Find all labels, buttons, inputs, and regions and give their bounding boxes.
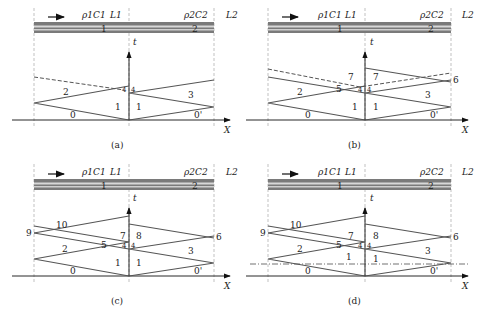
panel-caption: (d) bbox=[348, 296, 361, 306]
rod2-impedance-label: ρ2C2 bbox=[419, 167, 444, 177]
segment-2-label: 2 bbox=[428, 181, 434, 191]
rod1-impedance-label: ρ1C1 bbox=[317, 10, 342, 20]
region-label: 6 bbox=[453, 75, 459, 85]
wave-lines bbox=[268, 68, 451, 120]
region-label: 5 bbox=[336, 240, 342, 250]
panel-c: ρ1C1 L1 ρ2C2 L2 1 2 t X 0 0' 1 1 2 3 4 4… bbox=[12, 164, 238, 306]
region-label: 0 bbox=[70, 110, 76, 120]
rod-bar bbox=[34, 22, 214, 33]
l2-label: L2 bbox=[225, 10, 238, 20]
x-axis-label: X bbox=[223, 125, 231, 135]
region-label: 10 bbox=[290, 220, 302, 230]
x-axis-label: X bbox=[461, 125, 469, 135]
x-axis-label: X bbox=[223, 281, 231, 291]
panel-caption: (b) bbox=[348, 140, 361, 150]
region-label: 0' bbox=[194, 266, 202, 276]
region-label: 8 bbox=[373, 231, 379, 241]
region-label: 0 bbox=[305, 266, 311, 276]
region-label: 5 bbox=[336, 84, 342, 94]
region-label: 0' bbox=[430, 110, 438, 120]
region-label: 2 bbox=[297, 87, 303, 97]
t-axis-label: t bbox=[133, 193, 137, 203]
region-label: 0' bbox=[430, 266, 438, 276]
rod-bar bbox=[268, 22, 451, 33]
region-label: 4 bbox=[367, 86, 372, 94]
region-label: 1 bbox=[373, 254, 379, 264]
region-label: 2 bbox=[297, 244, 303, 254]
l1-label: L1 bbox=[109, 10, 122, 20]
panel-caption: (c) bbox=[111, 296, 123, 306]
region-label: 10 bbox=[56, 220, 68, 230]
segment-1-label: 1 bbox=[337, 181, 343, 191]
t-axis-label: t bbox=[370, 37, 374, 47]
region-label: 3 bbox=[188, 246, 194, 256]
region-label: 7 bbox=[120, 231, 126, 241]
region-label: 7 bbox=[373, 72, 379, 82]
rod1-impedance-label: ρ1C1 bbox=[81, 10, 106, 20]
panel-d: ρ1C1 L1 ρ2C2 L2 1 2 t X 0 0' 1 1 2 3 4 4… bbox=[246, 164, 474, 306]
segment-1-label: 1 bbox=[101, 24, 107, 34]
region-label: 2 bbox=[63, 87, 69, 97]
region-label: 1 bbox=[352, 102, 358, 112]
region-label: 4 bbox=[122, 242, 127, 250]
region-label: 1 bbox=[136, 258, 142, 268]
region-label: 1 bbox=[373, 102, 379, 112]
region-label: 9 bbox=[26, 228, 32, 238]
rod-bar bbox=[268, 179, 451, 190]
region-label: 4 bbox=[358, 242, 363, 250]
region-label: 6 bbox=[216, 232, 222, 242]
region-label: 7 bbox=[348, 231, 354, 241]
panel-b: ρ1C1 L1 ρ2C2 L2 1 2 t X 0 0' 1 1 2 3 4 4… bbox=[246, 8, 474, 150]
region-label: 0 bbox=[305, 110, 311, 120]
region-label: 0 bbox=[70, 266, 76, 276]
rod2-impedance-label: ρ2C2 bbox=[419, 10, 444, 20]
region-label: 0' bbox=[194, 110, 202, 120]
region-label: 1 bbox=[136, 102, 142, 112]
region-label: 1 bbox=[346, 252, 352, 262]
region-label: 3 bbox=[425, 246, 431, 256]
region-label: 4 bbox=[131, 86, 136, 94]
t-axis-label: t bbox=[370, 193, 374, 203]
region-label: 4 bbox=[358, 86, 363, 94]
region-label: 4 bbox=[367, 242, 372, 250]
segment-2-label: 2 bbox=[192, 24, 198, 34]
panel-a: ρ1C1 L1 ρ2C2 L2 1 2 t X 0 0' 1 1 2 3 4 4… bbox=[12, 8, 238, 150]
l1-label: L1 bbox=[109, 167, 122, 177]
l2-label: L2 bbox=[461, 167, 474, 177]
segment-2-label: 2 bbox=[192, 181, 198, 191]
region-label: 2 bbox=[62, 244, 68, 254]
l2-label: L2 bbox=[225, 167, 238, 177]
rod2-impedance-label: ρ2C2 bbox=[183, 167, 208, 177]
wave-diagram-figure: ρ1C1 L1 ρ2C2 L2 1 2 t X 0 0' 1 1 2 3 4 4… bbox=[0, 0, 479, 313]
region-label: 5 bbox=[101, 240, 107, 250]
region-label: 7 bbox=[348, 72, 354, 82]
region-label: 4 bbox=[122, 86, 127, 94]
l1-label: L1 bbox=[344, 167, 357, 177]
region-label: 1 bbox=[115, 102, 121, 112]
t-axis-label: t bbox=[133, 37, 137, 47]
l2-label: L2 bbox=[461, 10, 474, 20]
x-axis-label: X bbox=[461, 281, 469, 291]
segment-1-label: 1 bbox=[101, 181, 107, 191]
region-label: 3 bbox=[188, 90, 194, 100]
rod-bar bbox=[34, 179, 214, 190]
region-label: 8 bbox=[136, 231, 142, 241]
panel-caption: (a) bbox=[111, 140, 123, 150]
rod1-impedance-label: ρ1C1 bbox=[317, 167, 342, 177]
region-label: 1 bbox=[115, 258, 121, 268]
region-label: 3 bbox=[425, 90, 431, 100]
rod1-impedance-label: ρ1C1 bbox=[81, 167, 106, 177]
segment-2-label: 2 bbox=[428, 24, 434, 34]
l1-label: L1 bbox=[344, 10, 357, 20]
region-label: 6 bbox=[453, 232, 459, 242]
region-label: 4 bbox=[131, 242, 136, 250]
segment-1-label: 1 bbox=[337, 24, 343, 34]
region-label: 9 bbox=[260, 228, 266, 238]
rod2-impedance-label: ρ2C2 bbox=[183, 10, 208, 20]
